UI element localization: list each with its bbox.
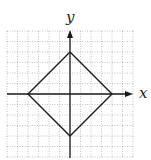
graph-plot — [0, 0, 151, 160]
y-axis-label: y — [66, 10, 74, 25]
x-axis-label: x — [139, 86, 147, 101]
